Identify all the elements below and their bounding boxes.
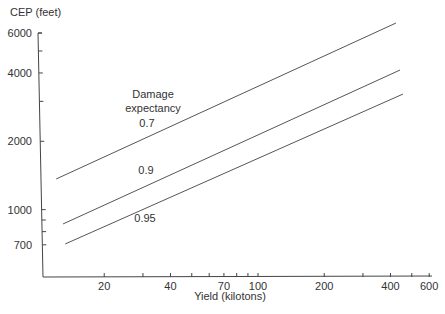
chart: 7001000200040006000204070100200400600 Da… bbox=[0, 0, 445, 314]
axes: 7001000200040006000204070100200400600 bbox=[8, 27, 439, 292]
annotations: Damageexpectancy0.70.90.95 bbox=[125, 88, 181, 224]
annotation-label: 0.95 bbox=[134, 212, 155, 224]
series-line-0-7 bbox=[56, 23, 396, 179]
y-axis-title: CEP (feet) bbox=[10, 6, 61, 18]
x-tick-label: 20 bbox=[98, 280, 110, 292]
x-tick-label: 40 bbox=[164, 280, 176, 292]
annotation-label: 0.9 bbox=[138, 164, 153, 176]
x-tick-label: 400 bbox=[381, 280, 399, 292]
y-axis-line bbox=[38, 33, 43, 277]
y-tick-label: 4000 bbox=[8, 67, 32, 79]
y-tick-label: 700 bbox=[14, 239, 32, 251]
x-axis-line bbox=[43, 276, 432, 277]
annotation-label: Damage bbox=[132, 88, 174, 100]
x-axis-title: Yield (kilotons) bbox=[194, 290, 266, 302]
y-tick-label: 6000 bbox=[8, 27, 32, 39]
y-tick-label: 1000 bbox=[8, 204, 32, 216]
series-line-0-9 bbox=[63, 70, 400, 224]
y-tick-label: 2000 bbox=[8, 135, 32, 147]
series-line-0-95 bbox=[65, 94, 403, 244]
x-tick-label: 200 bbox=[315, 280, 333, 292]
x-tick-label: 600 bbox=[420, 280, 438, 292]
annotation-label: 0.7 bbox=[139, 117, 154, 129]
series-lines bbox=[56, 23, 403, 244]
annotation-label: expectancy bbox=[125, 102, 181, 114]
